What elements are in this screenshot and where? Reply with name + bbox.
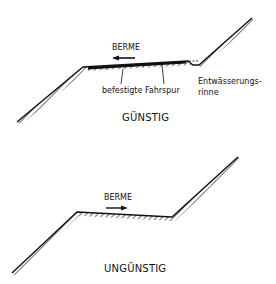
berm-label-unfavorable: BERME	[104, 194, 132, 202]
unfavorable-profile	[12, 157, 241, 276]
arrow-right-icon	[106, 206, 128, 211]
drainage-label-line1: Entwässerungs-	[198, 78, 262, 86]
favorable-profile	[17, 18, 255, 125]
favorable-surface-line	[17, 18, 252, 122]
paved-lane-label: befestigte Fahrspur	[102, 87, 180, 95]
unfavorable-surface-line	[12, 157, 238, 273]
right-slope-hatching	[198, 18, 255, 68]
paved-lane-leader-right	[162, 65, 164, 84]
right-slope-hatching	[172, 157, 241, 221]
unfavorable-title: UNGÜNSTIG	[104, 264, 166, 274]
drainage-label-line2: rinne	[198, 89, 219, 97]
left-slope-hatching	[17, 67, 87, 125]
left-slope-hatching	[12, 212, 80, 276]
arrow-left-icon	[112, 56, 135, 61]
paved-lane-leader-left	[121, 69, 123, 84]
berm-label-favorable: BERME	[112, 44, 140, 52]
favorable-title: GÜNSTIG	[122, 113, 169, 123]
